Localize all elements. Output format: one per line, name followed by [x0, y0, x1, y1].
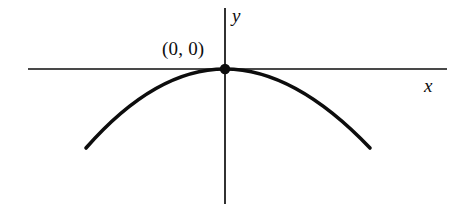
y-axis-label: y — [232, 6, 240, 25]
origin-point-label: (0, 0) — [162, 39, 204, 58]
origin-point-marker — [220, 64, 230, 74]
parabola-curve — [86, 69, 370, 148]
plot-canvas — [0, 0, 469, 204]
x-axis-label: x — [424, 76, 432, 95]
parabola-figure: y x (0, 0) — [0, 0, 469, 204]
